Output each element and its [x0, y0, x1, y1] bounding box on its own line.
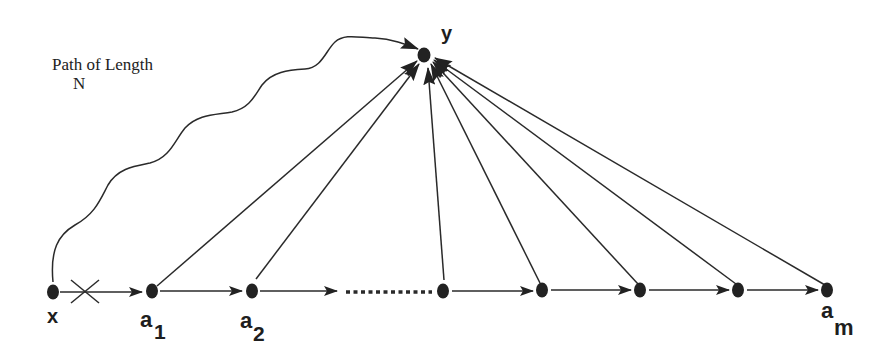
node-am [821, 283, 833, 298]
caption-path-length: Path of Length [52, 55, 154, 74]
caption-n: N [73, 74, 85, 93]
label-am: a [821, 298, 834, 323]
dag-diagram: Path of Length N y x a 1 a 2 a m [0, 0, 892, 362]
edge-am-to-y [435, 58, 825, 285]
node-a1 [146, 284, 158, 299]
label-x: x [47, 305, 58, 327]
node-x [47, 285, 59, 300]
edge-n5-to-y [431, 64, 540, 283]
edge-a2-to-y [256, 64, 419, 279]
edge-n7-to-y [434, 60, 736, 284]
node-4 [437, 284, 449, 299]
node-7 [732, 283, 744, 298]
label-y: y [441, 22, 453, 44]
node-5 [536, 283, 548, 298]
label-a2: a [240, 308, 253, 333]
label-a1-sub: 1 [154, 320, 166, 343]
node-a2 [246, 284, 258, 299]
node-y [418, 48, 431, 63]
label-a1: a [140, 307, 153, 332]
edge-a1-to-y [157, 61, 417, 286]
edge-n4-to-y [428, 68, 444, 280]
label-am-sub: m [834, 315, 854, 340]
node-6 [634, 283, 646, 298]
label-a2-sub: 2 [253, 322, 265, 345]
edge-n6-to-y [433, 62, 638, 284]
